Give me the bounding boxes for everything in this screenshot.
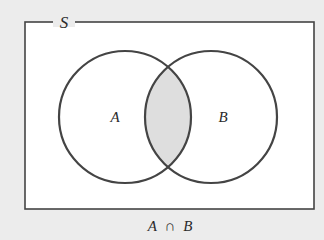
caption-operator: ∩: [165, 218, 176, 234]
universe-label: S: [60, 13, 69, 32]
caption-left-set: A: [147, 218, 158, 234]
caption-right-set: B: [183, 218, 192, 234]
caption: A ∩ B: [147, 218, 193, 234]
venn-svg: S A B A ∩ B: [0, 0, 324, 240]
set-b-label: B: [218, 109, 227, 125]
set-a-label: A: [109, 109, 120, 125]
venn-diagram: S A B A ∩ B: [0, 0, 324, 240]
